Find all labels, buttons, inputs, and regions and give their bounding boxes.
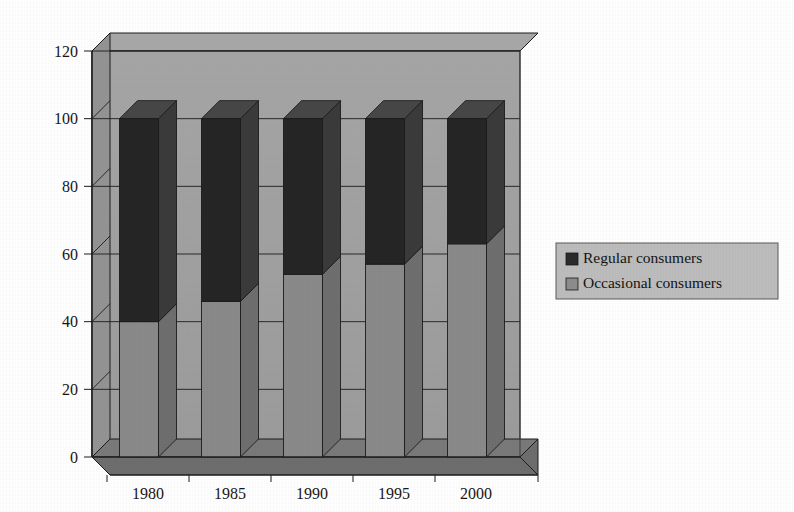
- bar-side-1985-1: [241, 101, 259, 302]
- y-tick-label-20: 20: [62, 381, 78, 398]
- bar-stack-1980: [120, 101, 177, 457]
- chart-canvas: 020406080100120 19801985199019952000 Reg…: [0, 0, 794, 512]
- bar-side-1985-0: [241, 283, 259, 457]
- bar-side-1980-1: [159, 101, 177, 322]
- bar-stack-1990: [284, 101, 341, 457]
- bar-segment-1985-occasional-consumers: [202, 301, 241, 457]
- y-tick-label-80: 80: [62, 178, 78, 195]
- x-tick-label-2000: 2000: [460, 485, 492, 502]
- bar-segment-1990-regular-consumers: [284, 119, 323, 275]
- y-tick-label-60: 60: [62, 246, 78, 263]
- bar-stack-1995: [366, 101, 423, 457]
- floor-front-face: [92, 457, 538, 475]
- y-tick-label-100: 100: [54, 110, 78, 127]
- y-tick-label-40: 40: [62, 313, 78, 330]
- bar-segment-1980-regular-consumers: [120, 119, 159, 322]
- y-tick-label-120: 120: [54, 43, 78, 60]
- bar-segment-1990-occasional-consumers: [284, 274, 323, 457]
- y-tick-label-0: 0: [70, 449, 78, 466]
- legend-swatch-occasional-consumers: [566, 278, 578, 290]
- bar-side-1990-1: [323, 101, 341, 275]
- bar-segment-2000-occasional-consumers: [448, 244, 487, 457]
- back-wall-top-face: [92, 33, 538, 51]
- bar-side-1995-0: [405, 246, 423, 457]
- bar-segment-2000-regular-consumers: [448, 119, 487, 244]
- bar-side-2000-1: [487, 101, 505, 244]
- x-tick-label-1995: 1995: [378, 485, 410, 502]
- bar-segment-1985-regular-consumers: [202, 119, 241, 302]
- bar-side-1990-0: [323, 256, 341, 457]
- chart-legend: Regular consumersOccasional consumers: [556, 243, 778, 299]
- stacked-column-chart: 020406080100120 19801985199019952000 Reg…: [0, 0, 794, 512]
- bar-side-1995-1: [405, 101, 423, 264]
- bar-segment-1995-regular-consumers: [366, 119, 405, 264]
- x-tick-label-1985: 1985: [214, 485, 246, 502]
- bar-side-2000-0: [487, 226, 505, 457]
- bar-stack-1985: [202, 101, 259, 457]
- x-tick-label-1980: 1980: [132, 485, 164, 502]
- bar-stack-2000: [448, 101, 505, 457]
- x-tick-label-1990: 1990: [296, 485, 328, 502]
- legend-label-occasional-consumers: Occasional consumers: [583, 274, 722, 291]
- bar-segment-1980-occasional-consumers: [120, 322, 159, 457]
- legend-label-regular-consumers: Regular consumers: [583, 249, 702, 266]
- legend-swatch-regular-consumers: [566, 253, 578, 265]
- bar-segment-1995-occasional-consumers: [366, 264, 405, 457]
- bar-side-1980-0: [159, 304, 177, 457]
